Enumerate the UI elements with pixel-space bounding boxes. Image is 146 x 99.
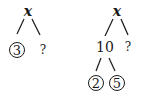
edge-left-root-to-question: [32, 19, 40, 35]
node-value: 3: [13, 43, 21, 58]
node-value: 5: [113, 76, 121, 91]
edge-right-root-to-question: [121, 19, 128, 35]
root-node: x: [24, 4, 32, 18]
unknown-node: ?: [125, 40, 131, 54]
unknown-node: ?: [40, 43, 46, 57]
edge-right-root-to-10: [105, 19, 113, 36]
circled-prime-node: 2: [88, 75, 104, 91]
circled-prime-node: 3: [9, 42, 25, 58]
circled-prime-node: 5: [109, 75, 125, 91]
edge-10-to-2: [96, 58, 101, 71]
composite-node: 10: [96, 40, 114, 54]
root-node: x: [113, 4, 121, 18]
edge-10-to-5: [109, 58, 115, 71]
edge-left-root-to-3: [17, 19, 24, 34]
node-value: 2: [92, 76, 100, 91]
